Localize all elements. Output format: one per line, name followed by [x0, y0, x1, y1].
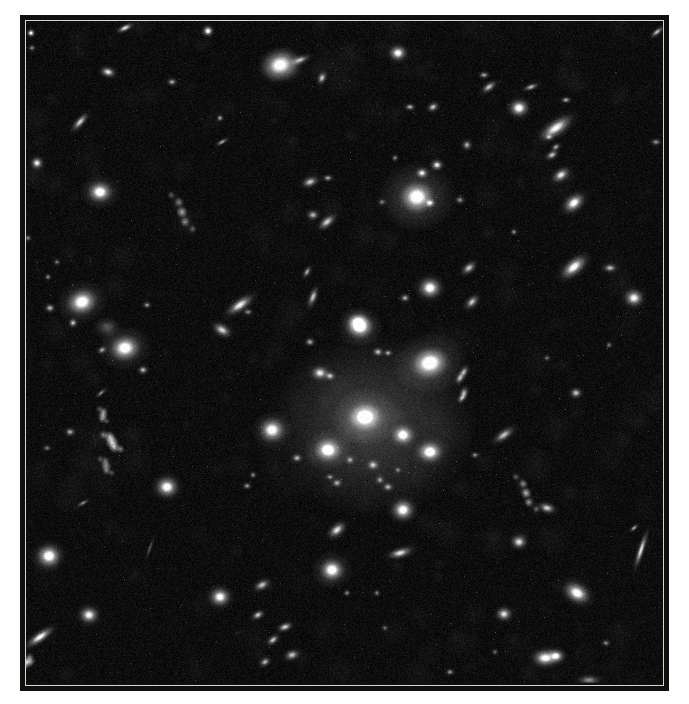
page: [0, 0, 689, 704]
photo-inner-border: [25, 20, 664, 686]
galaxy-cluster-photo: [26, 21, 663, 683]
photo-frame: [20, 15, 669, 691]
